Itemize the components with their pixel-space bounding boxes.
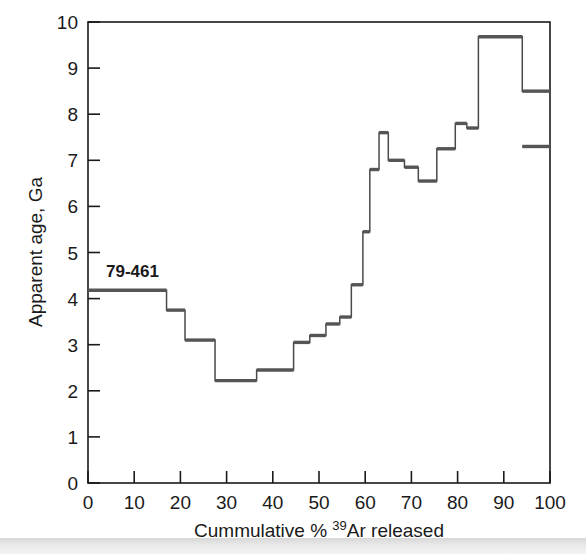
y-tick-label-1: 1 [67,427,78,448]
y-tick-label-2: 2 [67,381,78,402]
y-tick-label-10: 10 [57,12,78,33]
x-axis-ticks [88,471,550,483]
x-axis-tick-labels: 0102030405060708090100 [83,492,566,513]
x-axis-title-superscript: 39 [332,518,346,533]
y-tick-label-8: 8 [67,104,78,125]
x-tick-label-50: 50 [308,492,329,513]
y-axis-title: Apparent age, Ga [25,177,46,327]
page-bottom-strip [0,538,586,554]
y-axis-tick-labels: 012345678910 [57,12,79,494]
y-tick-label-9: 9 [67,58,78,79]
y-tick-label-4: 4 [67,289,78,310]
x-tick-label-80: 80 [447,492,468,513]
y-tick-label-5: 5 [67,243,78,264]
y-tick-label-6: 6 [67,196,78,217]
spectrum-plateau-bars [88,37,550,381]
y-tick-label-7: 7 [67,150,78,171]
y-tick-label-0: 0 [67,473,78,494]
x-tick-label-10: 10 [124,492,145,513]
x-tick-label-40: 40 [262,492,283,513]
x-tick-label-90: 90 [493,492,514,513]
x-tick-label-20: 20 [170,492,191,513]
age-spectrum-chart: 012345678910 0102030405060708090100 79-4… [0,0,586,554]
x-tick-label-30: 30 [216,492,237,513]
spectrum-outline [88,37,550,381]
age-spectrum-series [88,37,550,381]
y-tick-label-3: 3 [67,335,78,356]
plot-frame [88,22,550,483]
y-axis-ticks [88,22,100,483]
x-tick-label-70: 70 [401,492,422,513]
sample-annotation: 79-461 [106,262,159,281]
x-tick-label-100: 100 [534,492,566,513]
figure-page: 012345678910 0102030405060708090100 79-4… [0,0,586,554]
x-tick-label-60: 60 [355,492,376,513]
x-tick-label-0: 0 [83,492,94,513]
